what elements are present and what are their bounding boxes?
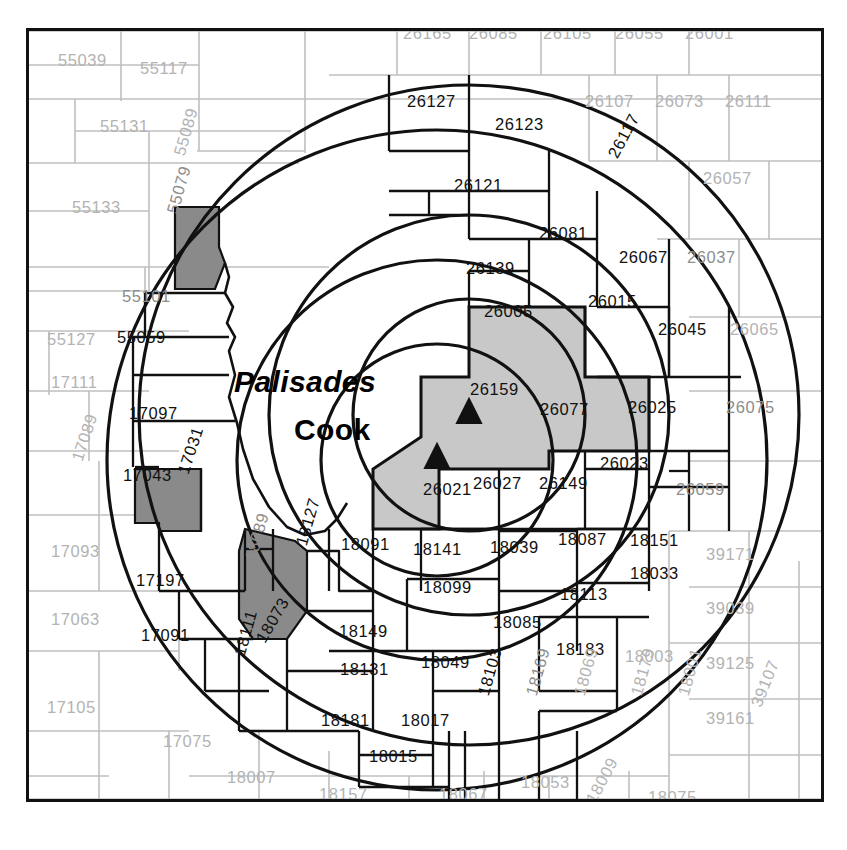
map-geometry <box>29 31 821 799</box>
map-frame: Palisades Cook 5503955117551315508955133… <box>26 28 824 802</box>
light-shaded-counties <box>373 307 649 529</box>
dark-shaded-counties <box>135 207 307 639</box>
county-shape-26005-26159-26077-26021 <box>373 307 649 529</box>
nuclear-epz-map: Palisades Cook 5503955117551315508955133… <box>0 0 847 850</box>
